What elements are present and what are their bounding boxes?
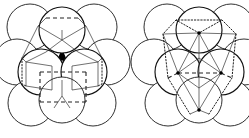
lattice-node-dot: [219, 71, 223, 75]
panel-hexagonal-close-packed: [131, 4, 249, 126]
lattice-node-dot: [176, 71, 180, 75]
lattice-node-dot: [197, 108, 201, 112]
panel-cubic-close-packed: [0, 4, 130, 126]
figure-canvas: [0, 0, 249, 138]
crystal-structure-figure: [0, 0, 249, 138]
lattice-node-dot: [197, 31, 201, 35]
